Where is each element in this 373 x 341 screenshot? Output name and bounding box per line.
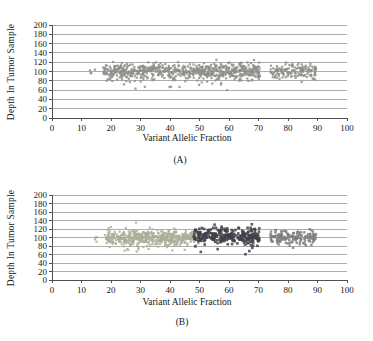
svg-text:140: 140 [34, 216, 48, 226]
y-axis-title-panel-b: Depth In Tumor Sample [6, 189, 16, 285]
svg-text:100: 100 [340, 285, 354, 295]
svg-text:90: 90 [313, 285, 323, 295]
svg-text:0: 0 [50, 285, 55, 295]
svg-text:50: 50 [195, 285, 205, 295]
svg-text:40: 40 [38, 258, 48, 268]
svg-text:60: 60 [225, 123, 235, 133]
svg-text:100: 100 [340, 123, 354, 133]
svg-text:30: 30 [136, 285, 146, 295]
svg-text:30: 30 [136, 123, 146, 133]
panel-b-caption: (B) [176, 317, 189, 327]
svg-text:100: 100 [34, 67, 48, 77]
scatter-plots-canvas: 0204060801001201401601802000102030405060… [0, 0, 373, 341]
svg-text:120: 120 [34, 224, 48, 234]
svg-text:20: 20 [107, 285, 117, 295]
panel-a-caption: (A) [173, 155, 186, 165]
svg-text:60: 60 [225, 285, 235, 295]
x-axis-title-panel-b: Variant Allelic Fraction [142, 297, 231, 307]
svg-text:200: 200 [34, 190, 48, 200]
svg-text:200: 200 [34, 20, 48, 30]
cluster-low-vaf-green [94, 221, 200, 252]
svg-text:180: 180 [34, 199, 48, 209]
svg-text:40: 40 [38, 94, 48, 104]
svg-text:100: 100 [34, 233, 48, 243]
svg-text:40: 40 [166, 285, 176, 295]
svg-text:20: 20 [107, 123, 117, 133]
svg-text:80: 80 [284, 285, 294, 295]
panel-a: 0204060801001201401601802000102030405060… [34, 20, 355, 133]
svg-text:140: 140 [34, 48, 48, 58]
svg-text:0: 0 [43, 275, 48, 285]
svg-text:10: 10 [77, 285, 87, 295]
svg-text:60: 60 [38, 250, 48, 260]
svg-text:0: 0 [50, 123, 55, 133]
svg-text:70: 70 [254, 285, 264, 295]
svg-text:120: 120 [34, 57, 48, 67]
svg-text:160: 160 [34, 39, 48, 49]
cluster-mid-vaf-dark [192, 223, 260, 256]
x-axis-title-panel-a: Variant Allelic Fraction [142, 133, 231, 143]
svg-text:20: 20 [38, 267, 48, 277]
svg-text:20: 20 [38, 104, 48, 114]
svg-text:90: 90 [313, 123, 323, 133]
svg-text:40: 40 [166, 123, 176, 133]
svg-text:50: 50 [195, 123, 205, 133]
y-axis-title-panel-a: Depth In Tumor Sample [6, 23, 16, 119]
svg-text:10: 10 [77, 123, 87, 133]
svg-text:80: 80 [284, 123, 294, 133]
svg-text:70: 70 [254, 123, 264, 133]
all-variants-gray [89, 59, 317, 91]
svg-text:180: 180 [34, 29, 48, 39]
svg-text:80: 80 [38, 76, 48, 86]
two-panel-scatter-figure: 0204060801001201401601802000102030405060… [0, 0, 373, 341]
panel-b: 0204060801001201401601802000102030405060… [34, 190, 355, 295]
svg-text:60: 60 [38, 85, 48, 95]
svg-text:80: 80 [38, 241, 48, 251]
svg-text:160: 160 [34, 207, 48, 217]
svg-text:0: 0 [43, 113, 48, 123]
